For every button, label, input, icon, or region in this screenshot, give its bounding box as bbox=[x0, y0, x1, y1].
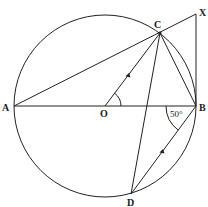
label-o: O bbox=[100, 108, 108, 119]
segment-cd bbox=[131, 33, 160, 194]
angle-arc-o bbox=[115, 93, 121, 106]
segment-ax bbox=[14, 14, 196, 106]
angle-label-b: 50° bbox=[170, 109, 183, 119]
label-a: A bbox=[2, 102, 10, 113]
label-d: D bbox=[127, 197, 134, 207]
segment-cb bbox=[160, 33, 196, 106]
label-b: B bbox=[199, 102, 206, 113]
geometry-diagram: A B C D O X 50° bbox=[0, 0, 208, 207]
label-x: X bbox=[199, 7, 207, 18]
point-c-dot bbox=[158, 31, 161, 34]
segment-db bbox=[131, 106, 196, 194]
segment-oc bbox=[105, 33, 160, 106]
label-c: C bbox=[154, 19, 161, 30]
